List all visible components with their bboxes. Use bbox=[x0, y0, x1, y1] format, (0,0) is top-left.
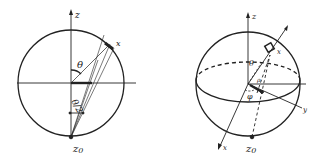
right-z-arrowhead-icon bbox=[246, 12, 250, 18]
right-x-arrowhead-icon bbox=[218, 143, 222, 150]
left-theta-arc bbox=[71, 70, 81, 74]
right-point-label: x bbox=[277, 48, 281, 56]
right-x-label: x bbox=[223, 144, 227, 152]
left-z-label: z bbox=[74, 10, 80, 20]
right-rho-end bbox=[261, 91, 264, 94]
left-point-label: x bbox=[116, 39, 121, 48]
left-ray-2 bbox=[71, 44, 110, 137]
right-diagram bbox=[196, 12, 306, 150]
left-ray-1 bbox=[71, 35, 104, 137]
right-x-axis bbox=[220, 84, 248, 146]
right-source-point bbox=[250, 135, 254, 139]
left-tick-dot bbox=[69, 112, 71, 114]
right-source-label: z0 bbox=[245, 143, 256, 155]
right-dashed-vertical bbox=[252, 55, 270, 137]
left-source-label: z0 bbox=[72, 143, 83, 155]
left-tick-dot-2 bbox=[82, 112, 84, 114]
right-rho-label: ρ bbox=[256, 76, 261, 84]
left-diagram bbox=[17, 9, 136, 139]
right-y-label: y bbox=[302, 106, 308, 114]
right-phi-label: φ bbox=[247, 92, 253, 101]
left-theta-label: θ bbox=[77, 59, 83, 70]
right-theta-label: θ bbox=[249, 59, 254, 68]
left-source-point bbox=[69, 135, 73, 139]
right-z-label: z bbox=[251, 12, 257, 21]
right-volume-element bbox=[265, 43, 275, 53]
right-phi-arc bbox=[245, 90, 254, 91]
right-rho-segment bbox=[250, 85, 262, 92]
left-z-arrowhead-icon bbox=[69, 9, 73, 15]
figure-canvas: z x θ θ/2 z0 z x θ ρ φ bbox=[0, 0, 326, 158]
